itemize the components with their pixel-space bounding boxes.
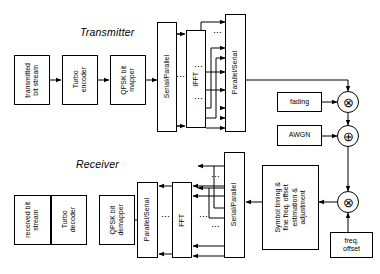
section-title-receiver: Receiver: [76, 158, 119, 170]
block-label: fading: [290, 98, 309, 106]
block-awgn[interactable]: AWGN: [277, 125, 322, 146]
mixer-fading-icon: ⊗: [337, 91, 359, 113]
block-rx-serial-parallel[interactable]: Serial/Parallel: [224, 152, 245, 258]
block-label: FFT: [178, 214, 186, 227]
block-label: transmitted bit stream: [24, 63, 41, 98]
block-symbol-timing-sync[interactable]: Symbol timing & fine freq. offset estima…: [262, 165, 319, 250]
block-received-bit-stream[interactable]: received bit stream: [14, 195, 51, 245]
block-turbo-encoder[interactable]: Turbo encoder: [62, 55, 98, 105]
block-freq-offset[interactable]: freq. offset: [330, 232, 373, 258]
ellipsis-ifft-upper: ⋮: [196, 62, 199, 72]
block-label: IFFT: [192, 72, 200, 87]
block-label: received bit stream: [24, 202, 41, 238]
block-label: Symbol timing & fine freq. offset estima…: [274, 182, 307, 233]
ellipsis-rx-parallel-serial: ⋮: [163, 212, 166, 222]
ellipsis-rx-serial-parallel-lower: ⋮: [213, 222, 216, 232]
block-qpsk-bit-mapper[interactable]: QPSK bit mapper: [110, 55, 146, 105]
block-tx-parallel-serial[interactable]: Parallel/Serial: [225, 14, 246, 132]
adder-awgn-icon: ⊕: [337, 125, 359, 147]
block-label: Turbo encoder: [72, 67, 89, 92]
ellipsis-tx-serial-parallel: ⋮: [178, 72, 181, 82]
ofdm-block-diagram: Transmitter Receiver transmitted bit str…: [0, 0, 380, 274]
block-qpsk-bit-demapper[interactable]: QPSK bit demapper: [99, 195, 135, 245]
block-transmitted-bit-stream[interactable]: transmitted bit stream: [14, 55, 50, 105]
block-fading[interactable]: fading: [277, 92, 322, 112]
mixer-freq-offset-icon: ⊗: [337, 191, 359, 213]
block-turbo-decoder[interactable]: Turbo decoder: [51, 195, 87, 245]
multiply-symbol: ⊗: [343, 96, 354, 109]
block-label: QPSK bit mapper: [120, 66, 137, 95]
ellipsis-rx-serial-parallel-upper: ⋮: [213, 172, 216, 182]
block-tx-serial-parallel[interactable]: Serial/Parallel: [157, 22, 177, 132]
block-rx-parallel-serial[interactable]: Parallel/Serial: [137, 182, 158, 258]
add-symbol: ⊕: [343, 130, 354, 143]
block-label: freq. offset: [343, 237, 360, 254]
block-label: Serial/Parallel: [163, 55, 171, 98]
multiply-symbol: ⊗: [343, 196, 354, 209]
block-ifft[interactable]: IFFT: [186, 30, 206, 128]
block-label: Serial/Parallel: [230, 183, 238, 226]
section-title-transmitter: Transmitter: [80, 26, 135, 38]
block-label: AWGN: [289, 131, 311, 139]
ellipsis-ifft-lower: ⋮: [196, 94, 199, 104]
block-label: Parallel/Serial: [231, 51, 239, 94]
block-label: Parallel/Serial: [143, 198, 151, 241]
block-label: QPSK bit demapper: [109, 204, 126, 236]
ellipsis-tx-parallel-serial: ⋮: [215, 28, 218, 38]
ellipsis-fft: ⋮: [201, 212, 204, 222]
block-fft[interactable]: FFT: [172, 182, 192, 258]
block-label: Turbo decoder: [61, 207, 78, 232]
